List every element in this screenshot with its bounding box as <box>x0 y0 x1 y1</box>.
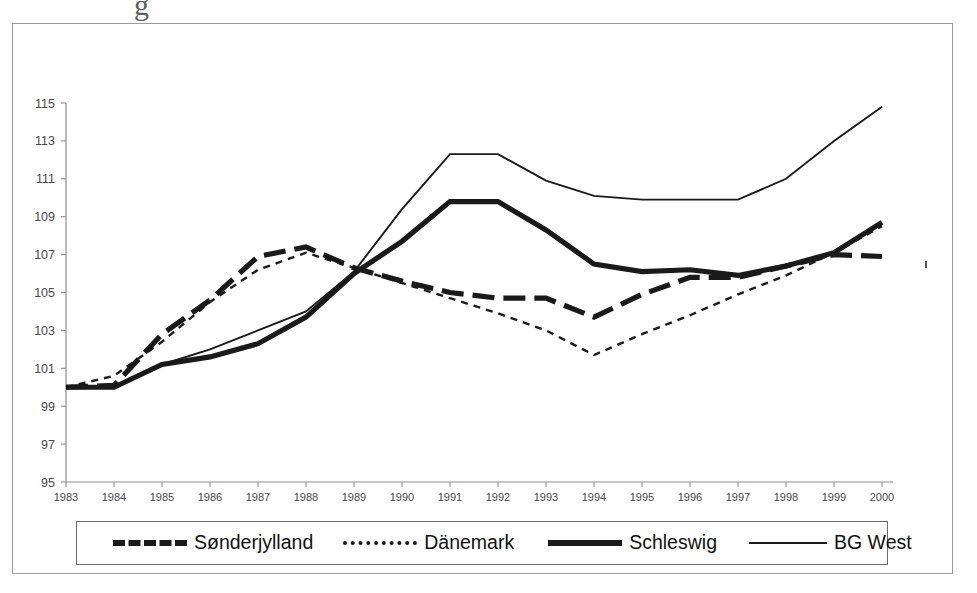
legend-swatch-thick-solid-icon <box>548 540 622 546</box>
x-tick-label: 1991 <box>438 491 462 503</box>
y-tick-label: 115 <box>35 97 55 111</box>
y-tick-label: 97 <box>41 438 55 452</box>
legend-swatch-thick-dashed-icon <box>113 540 187 546</box>
chart-legend: SønderjyllandDänemarkSchleswigBG West <box>76 521 888 565</box>
x-tick-label: 1999 <box>822 491 846 503</box>
chart-screenshot: g 959799101103105107109111113115 1983198… <box>0 0 977 593</box>
x-tick-label: 1989 <box>342 491 366 503</box>
plot-svg: 959799101103105107109111113115 198319841… <box>0 0 977 593</box>
y-tick-label: 109 <box>34 210 55 224</box>
series-line-s-nderjylland <box>66 247 882 387</box>
x-tick-group: 1983198419851986198719881989199019911992… <box>54 482 894 503</box>
legend-label: Sønderjylland <box>194 533 313 553</box>
legend-swatch-dotted-icon <box>343 541 417 545</box>
scan-speck <box>925 261 927 268</box>
legend-swatch-thin-solid-icon <box>749 542 827 544</box>
y-tick-label: 107 <box>34 248 55 262</box>
y-tick-label: 99 <box>41 400 55 414</box>
x-tick-label: 1996 <box>678 491 702 503</box>
y-tick-label: 105 <box>34 286 55 300</box>
x-tick-label: 1988 <box>294 491 318 503</box>
x-tick-label: 1983 <box>54 491 78 503</box>
x-tick-label: 1994 <box>582 491 606 503</box>
series-line-d-nemark <box>66 226 882 387</box>
x-tick-label: 1993 <box>534 491 558 503</box>
legend-label: BG West <box>834 533 912 553</box>
x-tick-label: 1995 <box>630 491 654 503</box>
series-group <box>66 107 882 387</box>
x-tick-label: 2000 <box>870 491 894 503</box>
line-chart: 959799101103105107109111113115 198319841… <box>0 0 977 593</box>
legend-item-schleswig[interactable]: Schleswig <box>548 533 717 553</box>
x-tick-label: 1984 <box>102 491 126 503</box>
y-tick-label: 101 <box>34 362 55 376</box>
x-axis: 1983198419851986198719881989199019911992… <box>54 482 894 503</box>
x-tick-label: 1992 <box>486 491 510 503</box>
y-tick-label: 95 <box>41 476 55 490</box>
legend-item-d-nemark[interactable]: Dänemark <box>343 533 514 553</box>
y-tick-label: 113 <box>35 134 55 148</box>
y-tick-label: 111 <box>36 172 55 186</box>
x-tick-label: 1985 <box>150 491 174 503</box>
x-tick-label: 1990 <box>390 491 414 503</box>
y-tick-group: 959799101103105107109111113115 <box>34 97 66 490</box>
legend-item-s-nderjylland[interactable]: Sønderjylland <box>113 533 313 553</box>
legend-item-bg-west[interactable]: BG West <box>749 533 912 553</box>
series-line-bg-west <box>66 107 882 387</box>
legend-label: Schleswig <box>629 533 717 553</box>
y-axis: 959799101103105107109111113115 <box>34 97 66 490</box>
y-tick-label: 103 <box>34 324 55 338</box>
x-tick-label: 1986 <box>198 491 222 503</box>
x-tick-label: 1997 <box>726 491 750 503</box>
legend-label: Dänemark <box>424 533 514 553</box>
x-tick-label: 1998 <box>774 491 798 503</box>
x-tick-label: 1987 <box>246 491 270 503</box>
